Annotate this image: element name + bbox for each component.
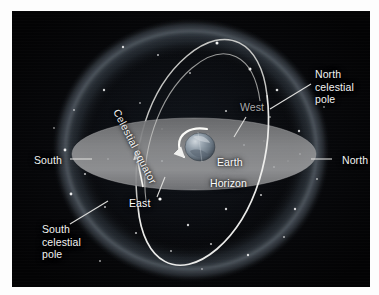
label-horizon: Horizon	[210, 177, 247, 190]
label-north: North	[342, 154, 368, 167]
celestial-sphere-illustration: North celestial pole South celestial pol…	[12, 11, 370, 287]
label-south: South	[34, 154, 62, 167]
label-west: West	[240, 101, 264, 114]
figure-page: North celestial pole South celestial pol…	[0, 0, 379, 295]
label-north-celestial-pole: North celestial pole	[315, 68, 354, 106]
label-east: East	[129, 197, 150, 210]
label-earth: Earth	[217, 156, 243, 169]
earth-globe	[185, 132, 215, 162]
label-south-celestial-pole: South celestial pole	[42, 223, 81, 261]
